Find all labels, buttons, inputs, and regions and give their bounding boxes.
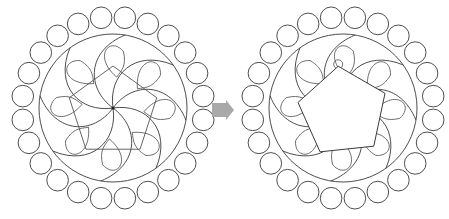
bead-circle bbox=[260, 42, 282, 64]
bead-circle bbox=[90, 7, 112, 29]
bead-circle bbox=[422, 85, 444, 107]
bead-circle bbox=[242, 109, 264, 131]
right-arrow-icon bbox=[212, 100, 234, 120]
swirl-petal bbox=[101, 139, 121, 170]
swirl-spoke bbox=[53, 108, 114, 156]
bead-circle bbox=[192, 109, 214, 131]
bead-circle bbox=[416, 132, 438, 154]
swirl-spoke bbox=[65, 48, 113, 109]
swirl-petal bbox=[67, 61, 94, 84]
bead-circle bbox=[242, 85, 264, 107]
bead-circle bbox=[114, 7, 136, 29]
bead-circle bbox=[18, 132, 40, 154]
bead-circle bbox=[367, 13, 389, 35]
bead-circle bbox=[192, 85, 214, 107]
bead-circle bbox=[320, 187, 342, 209]
swirl-petal bbox=[66, 127, 89, 154]
bead-circle bbox=[47, 25, 69, 47]
bead-circle bbox=[12, 109, 34, 131]
bead-circle bbox=[344, 7, 366, 29]
swirl-petal bbox=[51, 96, 82, 116]
bead-circle bbox=[344, 187, 366, 209]
mandala-diagram bbox=[0, 0, 449, 219]
arrow-shape bbox=[212, 100, 234, 120]
bead-circle bbox=[67, 181, 89, 203]
swirl-petal bbox=[137, 62, 160, 89]
swirl-spoke bbox=[113, 107, 161, 168]
bead-circle bbox=[388, 25, 410, 47]
after-mandala bbox=[242, 7, 444, 209]
bead-circle bbox=[158, 25, 180, 47]
pentagon-shape bbox=[298, 66, 385, 152]
bead-circle bbox=[186, 62, 208, 84]
bead-circle bbox=[174, 42, 196, 64]
bead-circle bbox=[404, 153, 426, 175]
before-mandala bbox=[12, 7, 214, 209]
bead-circle bbox=[422, 109, 444, 131]
swirl-spoke bbox=[112, 60, 173, 108]
bead-circle bbox=[416, 62, 438, 84]
bead-circle bbox=[67, 13, 89, 35]
bead-circle bbox=[137, 181, 159, 203]
bead-circle bbox=[30, 153, 52, 175]
bead-circle bbox=[30, 42, 52, 64]
swirl-petal bbox=[297, 61, 324, 84]
swirl-petal bbox=[132, 132, 159, 155]
bead-circle bbox=[248, 62, 270, 84]
bead-circle bbox=[404, 42, 426, 64]
bead-circle bbox=[186, 132, 208, 154]
bead-circle bbox=[47, 169, 69, 191]
bead-circle bbox=[388, 169, 410, 191]
bead-circle bbox=[137, 13, 159, 35]
bead-circle bbox=[248, 132, 270, 154]
bead-circle bbox=[277, 25, 299, 47]
bead-circle bbox=[297, 181, 319, 203]
bead-circle bbox=[18, 62, 40, 84]
bead-circle bbox=[12, 85, 34, 107]
swirl-petal bbox=[144, 99, 175, 119]
bead-circle bbox=[260, 153, 282, 175]
center-point bbox=[111, 106, 114, 109]
bead-circle bbox=[320, 7, 342, 29]
bead-circle bbox=[367, 181, 389, 203]
bead-circle bbox=[158, 169, 180, 191]
bead-circle bbox=[277, 169, 299, 191]
bead-circle bbox=[114, 187, 136, 209]
bead-circle bbox=[90, 187, 112, 209]
bead-circle bbox=[174, 153, 196, 175]
bead-circle bbox=[297, 13, 319, 35]
